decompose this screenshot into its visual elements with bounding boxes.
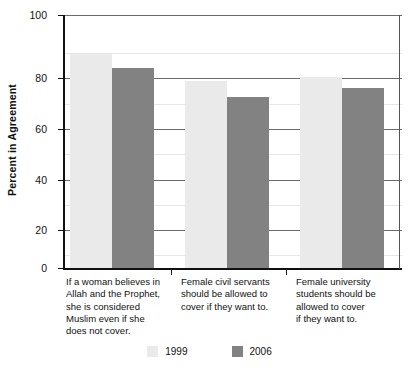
bar-1999-group-2 — [300, 77, 342, 268]
y-axis-title: Percent in Agreement — [4, 40, 20, 240]
x-axis-separator-1 — [171, 268, 172, 275]
x-axis-label-group-1-line-2: cover if they want to. — [181, 301, 286, 313]
x-axis-label-group-0-line-1: Allah and the Prophet, — [66, 288, 168, 300]
y-tick-label-20: 20 — [35, 224, 47, 236]
x-axis-label-group-0: If a woman believes in Allah and the Pro… — [66, 276, 168, 337]
plot-area: 0 20 40 60 80 100 — [63, 15, 402, 270]
y-tick-20: 20 — [58, 230, 64, 231]
y-tick-0: 0 — [58, 268, 64, 269]
x-axis-label-group-2-line-1: students should be — [296, 288, 400, 300]
y-tick-label-80: 80 — [35, 72, 47, 84]
x-axis-label-group-0-line-4: does not cover. — [66, 325, 168, 337]
x-axis-label-group-2-line-3: if they want to. — [296, 313, 400, 325]
bar-chart-figure: Percent in Agreement 0 20 40 60 80 — [0, 0, 419, 372]
x-axis-category-labels: If a woman believes in Allah and the Pro… — [63, 276, 400, 336]
legend-swatch-1999-icon — [147, 346, 158, 357]
chart-legend: 1999 2006 — [0, 346, 419, 357]
bar-1999-group-1 — [185, 81, 227, 268]
y-tick-100: 100 — [58, 15, 64, 16]
y-tick-label-40: 40 — [35, 174, 47, 186]
plot-right-border — [399, 15, 400, 269]
legend-item-2006: 2006 — [232, 346, 272, 357]
legend-label-2006: 2006 — [250, 346, 272, 357]
x-axis-label-group-1-line-1: should be allowed to — [181, 288, 286, 300]
y-tick-label-100: 100 — [29, 9, 47, 21]
y-tick-label-0: 0 — [41, 262, 47, 274]
legend-swatch-2006-icon — [232, 346, 243, 357]
legend-label-1999: 1999 — [165, 346, 187, 357]
y-tick-label-60: 60 — [35, 123, 47, 135]
bars-container — [65, 15, 402, 268]
y-axis-title-text: Percent in Agreement — [6, 84, 18, 196]
x-axis-label-group-0-line-0: If a woman believes in — [66, 276, 168, 288]
bar-2006-group-0 — [112, 68, 154, 268]
legend-item-1999: 1999 — [147, 346, 187, 357]
x-axis-separator-2 — [286, 268, 287, 275]
y-tick-80: 80 — [58, 78, 64, 79]
x-axis-label-group-2-line-0: Female university — [296, 276, 400, 288]
y-tick-60: 60 — [58, 129, 64, 130]
bar-1999-group-0 — [70, 54, 112, 268]
x-axis-label-group-1-line-0: Female civil servants — [181, 276, 286, 288]
x-axis-label-group-2: Female university students should be all… — [296, 276, 400, 325]
x-axis-label-group-0-line-3: Muslim even if she — [66, 313, 168, 325]
bar-2006-group-2 — [342, 88, 384, 268]
x-axis-label-group-0-line-2: she is considered — [66, 301, 168, 313]
y-tick-40: 40 — [58, 180, 64, 181]
x-axis-label-group-2-line-2: allowed to cover — [296, 301, 400, 313]
bar-2006-group-1 — [227, 97, 269, 268]
x-axis-label-group-1: Female civil servants should be allowed … — [181, 276, 286, 313]
